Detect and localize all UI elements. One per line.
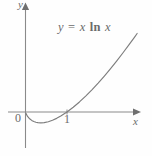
y-axis: [22, 3, 29, 149]
x-tick-label-1: 1: [64, 113, 70, 125]
curve-x-ln-x: [26, 33, 137, 122]
equation-coefficient: x: [80, 20, 86, 34]
graph-figure: y = x ln x y x 0 1: [0, 0, 152, 156]
x-axis-label: x: [133, 116, 138, 127]
y-axis-label: y: [18, 0, 23, 10]
x-axis: [8, 108, 141, 115]
equation-lhs: y: [58, 20, 64, 34]
origin-label: 0: [15, 112, 21, 124]
equation-function-ln: ln: [89, 20, 102, 34]
equation-annotation: y = x ln x: [58, 21, 111, 34]
equation-argument: x: [105, 20, 111, 34]
equation-operator: =: [67, 20, 76, 34]
